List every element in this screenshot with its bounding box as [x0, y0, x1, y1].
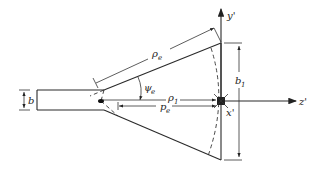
b1-label-sub: 1 — [241, 81, 245, 89]
rho-e-label: ρ — [151, 48, 158, 59]
x-axis-label: x' — [226, 107, 234, 118]
waveguide — [37, 90, 104, 110]
psi-e-arc — [138, 77, 141, 100]
y-axis-label: y' — [226, 10, 235, 21]
b-label: b — [28, 95, 34, 106]
rho-e-label-sub: e — [158, 54, 162, 62]
z-axis-label: z' — [298, 96, 307, 107]
rho-1-label: ρ — [167, 92, 174, 103]
apex-dashed-lines — [90, 90, 118, 116]
horn-diagram: y' z' x' b 1 b ρ e ψ e ρ 1 p — [0, 0, 319, 173]
pe-label-sub: e — [166, 107, 170, 115]
rho-1-label-sub: 1 — [174, 98, 178, 106]
psi-e-label-sub: e — [151, 88, 155, 96]
